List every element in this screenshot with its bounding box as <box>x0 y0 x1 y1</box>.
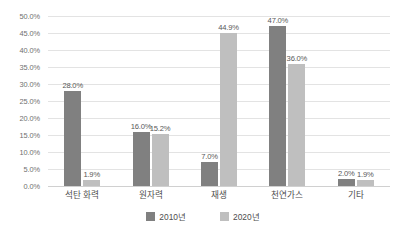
x-tick-label: 기타 <box>348 188 364 200</box>
gridline <box>48 186 390 187</box>
y-tick-label: 50.0% <box>20 12 40 21</box>
legend-swatch-icon <box>220 212 229 221</box>
y-tick-label: 5.0% <box>24 165 40 174</box>
legend-item[interactable]: 2010년 <box>146 210 186 222</box>
x-axis: 석탄 화력원자력재생천연가스기타 <box>48 188 390 206</box>
bar-value-label: 2.0% <box>338 169 355 178</box>
x-tick-label: 원자력 <box>139 188 163 200</box>
y-tick-label: 45.0% <box>20 29 40 38</box>
bar-value-label: 1.9% <box>357 170 374 179</box>
plot-area: 28.0%1.9%16.0%15.2%7.0%44.9%47.0%36.0%2.… <box>48 16 390 186</box>
y-tick-label: 10.0% <box>20 148 40 157</box>
x-tick-label: 석탄 화력 <box>65 188 99 200</box>
bar-group: 2.0%1.9% <box>48 16 390 186</box>
bar[interactable] <box>338 179 355 186</box>
y-tick-label: 0.0% <box>24 182 40 191</box>
x-tick-label: 재생 <box>211 188 227 200</box>
bar-chart: 0.0%5.0%10.0%15.0%20.0%25.0%30.0%35.0%40… <box>0 0 406 234</box>
chart-legend: 2010년2020년 <box>0 210 406 222</box>
legend-swatch-icon <box>146 212 155 221</box>
legend-label: 2020년 <box>233 210 260 222</box>
bar[interactable] <box>357 180 374 186</box>
y-tick-label: 20.0% <box>20 114 40 123</box>
y-tick-label: 15.0% <box>20 131 40 140</box>
x-tick-label: 천연가스 <box>271 188 303 200</box>
y-tick-label: 25.0% <box>20 97 40 106</box>
y-tick-label: 40.0% <box>20 46 40 55</box>
legend-label: 2010년 <box>159 210 186 222</box>
legend-item[interactable]: 2020년 <box>220 210 260 222</box>
y-tick-label: 35.0% <box>20 63 40 72</box>
y-axis: 0.0%5.0%10.0%15.0%20.0%25.0%30.0%35.0%40… <box>0 16 44 186</box>
y-tick-label: 30.0% <box>20 80 40 89</box>
